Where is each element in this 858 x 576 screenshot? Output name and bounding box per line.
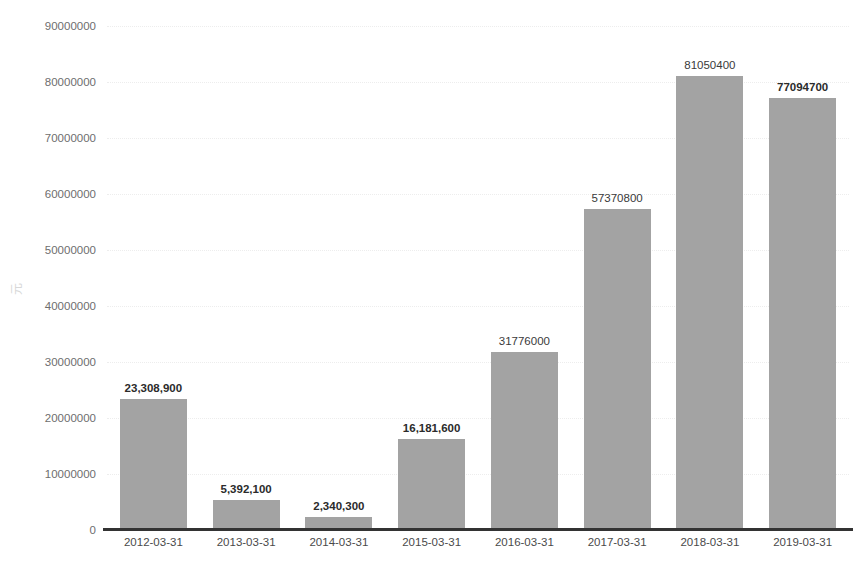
bar[interactable] xyxy=(676,76,743,530)
y-tick-label: 80000000 xyxy=(45,76,96,88)
y-tick-label: 40000000 xyxy=(45,300,96,312)
bar[interactable] xyxy=(584,209,651,530)
plot-area: 23,308,9005,392,1002,340,30016,181,60031… xyxy=(107,26,849,530)
y-tick-label: 30000000 xyxy=(45,356,96,368)
bar-chart: 元 01000000020000000300000004000000050000… xyxy=(0,0,858,576)
x-axis-line xyxy=(103,528,853,531)
bar-value-label: 5,392,100 xyxy=(176,483,316,495)
bar-value-label: 77094700 xyxy=(733,81,858,93)
bar[interactable] xyxy=(120,399,187,530)
bar-value-label: 81050400 xyxy=(640,59,780,71)
y-tick-label: 20000000 xyxy=(45,412,96,424)
bar[interactable] xyxy=(398,439,465,530)
y-tick-label: 10000000 xyxy=(45,468,96,480)
bar-value-label: 23,308,900 xyxy=(83,382,223,394)
bar[interactable] xyxy=(491,352,558,530)
bar-value-label: 57370800 xyxy=(547,192,687,204)
y-tick-label: 90000000 xyxy=(45,20,96,32)
y-tick-label: 0 xyxy=(90,524,96,536)
bar-value-label: 16,181,600 xyxy=(362,422,502,434)
x-tick-label: 2019-03-31 xyxy=(743,536,858,548)
bar-value-label: 2,340,300 xyxy=(269,500,409,512)
y-tick-label: 70000000 xyxy=(45,132,96,144)
x-axis-tick-labels: 2012-03-312013-03-312014-03-312015-03-31… xyxy=(107,536,849,560)
y-axis-tick-labels: 0100000002000000030000000400000005000000… xyxy=(0,26,100,530)
gridline xyxy=(107,26,849,27)
y-tick-label: 60000000 xyxy=(45,188,96,200)
y-tick-label: 50000000 xyxy=(45,244,96,256)
bar[interactable] xyxy=(769,98,836,530)
bar-value-label: 31776000 xyxy=(454,335,594,347)
